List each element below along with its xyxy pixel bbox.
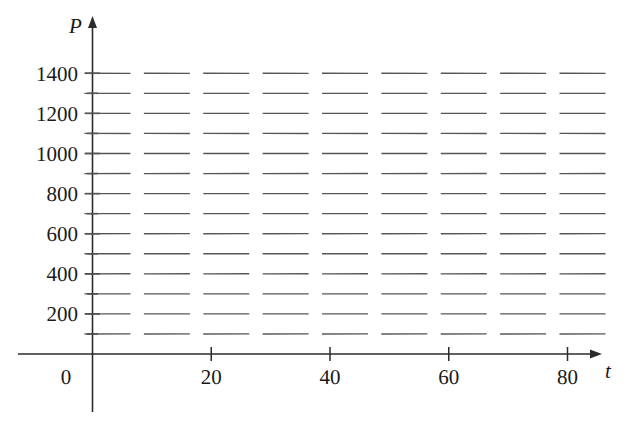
y-tick-label: 200	[47, 302, 79, 326]
x-tick-label: 60	[438, 365, 459, 389]
y-tick-label: 400	[47, 262, 79, 286]
x-tick-label: 40	[320, 365, 341, 389]
y-tick-label: 1200	[36, 102, 78, 126]
y-tick-label: 1400	[36, 62, 78, 86]
y-axis-arrowhead	[88, 16, 97, 28]
y-tick-label: 800	[47, 182, 79, 206]
y-axis-tick-labels: 200400600800100012001400	[36, 62, 78, 327]
origin-tick-label: 0	[61, 365, 72, 389]
x-tick-label: 80	[557, 365, 578, 389]
slope-field-figure: P t 0 200400600800100012001400 20406080	[0, 0, 629, 430]
slope-field-marks	[85, 73, 606, 334]
y-tick-label: 1000	[36, 142, 78, 166]
y-axis-label: P	[68, 14, 82, 38]
y-tick-label: 600	[47, 222, 79, 246]
x-axis-tick-labels: 20406080	[201, 365, 578, 389]
slope-field-plot: P t 0 200400600800100012001400 20406080	[0, 0, 629, 430]
x-axis-label: t	[605, 359, 612, 383]
x-axis-arrowhead	[590, 350, 602, 359]
x-tick-label: 20	[201, 365, 222, 389]
